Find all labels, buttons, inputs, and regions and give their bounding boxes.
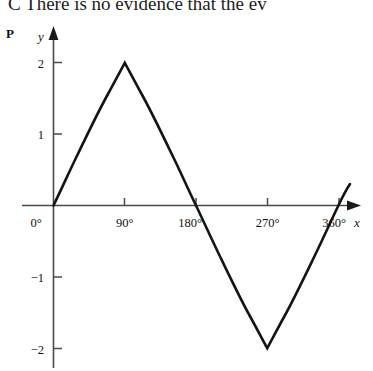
y-tick-label-1: 1 (38, 128, 44, 142)
x-tick-label-180: 180° (178, 216, 202, 230)
x-tick-label-270: 270° (256, 216, 280, 230)
x-axis-arrowhead (347, 200, 361, 210)
page-canvas: C There is no evidence that the ev P (0, 0, 373, 371)
graph-svg: y x 2 1 −1 −2 0° 90° 180° 270° 360° (0, 0, 373, 371)
y-axis-label: y (36, 29, 44, 44)
y-tick-label-2: 2 (38, 57, 44, 71)
y-axis-arrowhead (49, 26, 59, 40)
y-tick-label-minus-1: −1 (31, 271, 44, 285)
x-tick-label-90: 90° (116, 216, 134, 230)
sine-curve-figure: y x 2 1 −1 −2 0° 90° 180° 270° 360° (0, 0, 373, 371)
x-tick-label-0: 0° (30, 216, 41, 230)
y-tick-label-minus-2: −2 (31, 343, 44, 357)
x-tick-label-360: 360° (322, 216, 346, 230)
x-axis-label: x (353, 215, 360, 230)
